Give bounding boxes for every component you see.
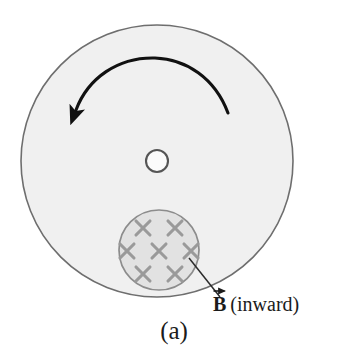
magnetic-field-region	[119, 210, 199, 290]
disk-axle-hole	[146, 150, 168, 172]
figure-container: B(inward) (a)	[0, 0, 348, 363]
physics-diagram-canvas	[0, 0, 348, 363]
